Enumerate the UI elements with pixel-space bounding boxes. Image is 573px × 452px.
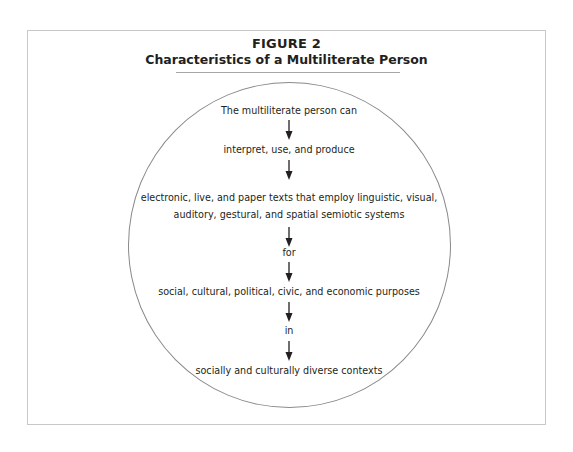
figure-label: FIGURE 2 [0,35,573,52]
down-arrow-icon [284,262,294,282]
down-arrow-icon [284,120,294,140]
flow-step-4: for [0,245,573,260]
flow-step-2: interpret, use, and produce [0,142,573,157]
down-arrow-icon [284,341,294,361]
down-arrow-icon [284,160,294,180]
flow-step-1: The multiliterate person can [0,103,573,118]
title-divider [176,72,400,73]
flow-step-6: in [0,323,573,338]
down-arrow-icon [284,227,294,247]
flow-step-3-line-1: electronic, live, and paper texts that e… [0,190,573,205]
flow-step-5: social, cultural, political, civic, and … [0,284,573,299]
figure-title: Characteristics of a Multiliterate Perso… [0,51,573,68]
flow-step-7: socially and culturally diverse contexts [0,363,573,378]
down-arrow-icon [284,302,294,322]
flow-step-3-line-2: auditory, gestural, and spatial semiotic… [0,207,573,222]
